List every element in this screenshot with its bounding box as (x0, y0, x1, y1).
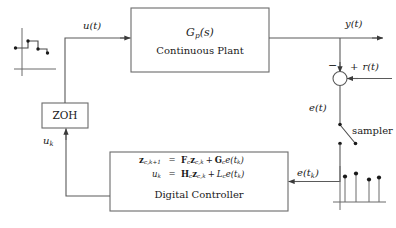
signal-label-u-t: u(t) (83, 21, 101, 31)
controller-to-zoh-wire (66, 134, 110, 196)
staircase-sample-dot (36, 47, 39, 50)
plant-block-caption: Continuous Plant (131, 45, 269, 56)
plant-transfer-function: Gp(s) (131, 26, 269, 40)
eq2-plus-operator: + (206, 169, 217, 179)
eq2-relation: = (167, 169, 177, 179)
diagram-canvas: Gp(s) Continuous Plant ZOH zc,k+1 = Fczc… (0, 0, 396, 228)
eq1-G-symbol: G (215, 155, 222, 165)
staircase-sample-dot (26, 39, 29, 42)
sampler-top-contact-dot (338, 123, 342, 127)
sampler-label: sampler (352, 126, 393, 136)
controller-equation-state: zc,k+1 = Fczc,k+Gce(tk) (112, 155, 286, 169)
summing-junction-positive-input: +r(t) (350, 62, 379, 72)
controller-equation-output: uk = Hczc,k+Lce(tk) (112, 169, 286, 183)
summing-junction-circle (333, 72, 347, 86)
eq1-lhs-subscript: c,k+1 (144, 159, 161, 165)
eq1-e-argument-close: ) (241, 155, 244, 165)
eq1-z-subscript: c,k (195, 159, 204, 165)
e-tk-close: ) (315, 167, 319, 178)
stem-sample-dot (377, 175, 381, 179)
staircase-sample-dot (14, 46, 17, 49)
eq2-e-argument-close: ) (241, 169, 244, 179)
u-k-subscript: k (49, 140, 53, 148)
plant-block-outline (131, 8, 269, 72)
controller-equations: zc,k+1 = Fczc,k+Gce(tk) uk = Hczc,k+Lce(… (112, 155, 286, 183)
summing-junction-negative-sign: − (328, 60, 337, 71)
u-t-argument: (t) (89, 20, 101, 31)
sampler-arm-end-dot (354, 142, 358, 146)
signal-label-e-t: e(t) (309, 103, 327, 113)
controller-block-caption: Digital Controller (110, 189, 288, 200)
zoh-to-plant-wire (65, 38, 127, 103)
stem-sample-dot (367, 177, 371, 181)
eq1-plus-operator: + (204, 155, 215, 165)
r-t-argument: (t) (367, 61, 379, 72)
stem-sample-dot (354, 171, 358, 175)
zoh-block-label: ZOH (42, 109, 88, 121)
plant-tf-symbol: G (186, 26, 195, 39)
summing-junction-positive-sign: + (350, 61, 358, 72)
signal-label-u-k: uk (43, 136, 54, 147)
eq2-H-symbol: H (181, 169, 189, 179)
signal-label-e-tk: e(tk) (297, 168, 319, 179)
eq2-lhs-subscript: k (158, 173, 162, 179)
stem-sample-dot (343, 174, 347, 178)
y-t-argument: (t) (351, 18, 363, 29)
staircase-sample-dot (46, 51, 49, 54)
plant-tf-argument: (s) (200, 26, 214, 39)
signal-label-y-t: y(t) (345, 19, 362, 29)
staircase-waveform-trace (15, 41, 47, 53)
e-t-argument: (t) (315, 102, 327, 113)
e-tk-argument: (t (303, 167, 311, 178)
eq2-z-subscript: c,k (197, 173, 206, 179)
eq1-relation: = (167, 155, 177, 165)
